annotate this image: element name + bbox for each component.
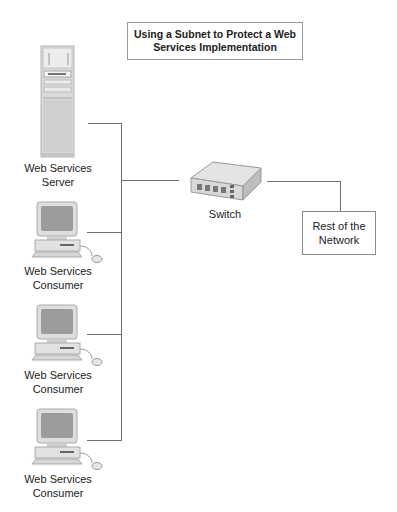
- rest-of-network-box: Rest of the Network: [302, 211, 376, 255]
- desktop-computer-icon: [30, 407, 110, 472]
- network-switch-icon: [185, 158, 265, 202]
- consumer-2-label-line-1: Web Services: [10, 368, 106, 382]
- server-label: Web Services Server: [10, 161, 106, 189]
- consumer-node-3: [30, 407, 110, 472]
- consumer-3-label-line-2: Consumer: [10, 486, 106, 500]
- network-label-line-2: Network: [319, 233, 359, 247]
- server-connector: [88, 123, 122, 124]
- desktop-computer-icon: [30, 200, 110, 265]
- diagram-title: Using a Subnet to Protect a Web Services…: [127, 22, 303, 60]
- server-node: [40, 45, 75, 158]
- server-label-line-2: Server: [10, 175, 106, 189]
- bus-line-vertical: [121, 123, 122, 441]
- desktop-computer-icon: [30, 303, 110, 368]
- network-label-line-1: Rest of the: [312, 219, 365, 233]
- consumer-3-label: Web Services Consumer: [10, 472, 106, 500]
- consumer-1-label-line-1: Web Services: [10, 264, 106, 278]
- consumer-2-label-line-2: Consumer: [10, 382, 106, 396]
- consumer-node-1: [30, 200, 110, 265]
- title-line-2: Services Implementation: [153, 41, 277, 54]
- network-connector-h: [267, 181, 341, 182]
- switch-label: Switch: [195, 207, 255, 221]
- consumer-2-label: Web Services Consumer: [10, 368, 106, 396]
- consumer-node-2: [30, 303, 110, 368]
- consumer-1-label: Web Services Consumer: [10, 264, 106, 292]
- switch-node: [185, 158, 265, 202]
- server-tower-icon: [40, 45, 75, 158]
- switch-connector: [121, 180, 179, 181]
- title-line-1: Using a Subnet to Protect a Web: [134, 28, 296, 41]
- consumer-1-label-line-2: Consumer: [10, 278, 106, 292]
- network-connector-v: [340, 181, 341, 211]
- consumer-3-label-line-1: Web Services: [10, 472, 106, 486]
- server-label-line-1: Web Services: [10, 161, 106, 175]
